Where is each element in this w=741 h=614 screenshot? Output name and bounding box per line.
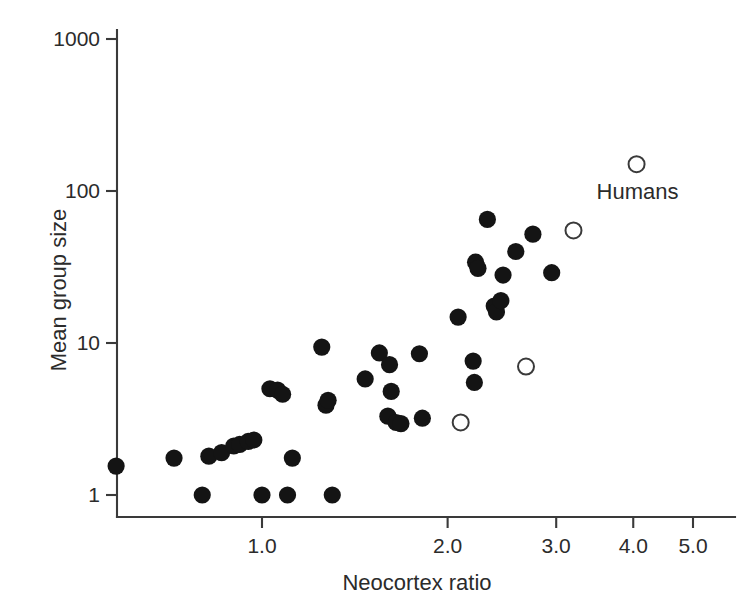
data-point-filled [284, 449, 301, 466]
data-point-filled [383, 383, 400, 400]
x-tick-label: 2.0 [433, 534, 462, 557]
data-point-open [453, 414, 469, 430]
x-tick-label: 3.0 [542, 534, 571, 557]
y-tick-label: 100 [65, 179, 100, 202]
axes-group [117, 30, 735, 517]
data-point-open [518, 359, 534, 375]
scatter-plot-figure: 1101001000 1.02.03.04.05.0 Humans Neocor… [0, 0, 741, 614]
data-point-filled [543, 264, 560, 281]
data-point-filled [245, 431, 262, 448]
data-point-filled [165, 449, 182, 466]
y-axis-title: Mean group size [46, 209, 71, 372]
y-tick-label: 1 [88, 483, 100, 506]
data-point-filled [465, 353, 482, 370]
annotations-layer: Humans [597, 179, 679, 204]
x-tick-label: 1.0 [247, 534, 276, 557]
data-points-layer [108, 156, 645, 503]
data-point-filled [357, 370, 374, 387]
data-point-filled [108, 457, 125, 474]
data-point-filled [507, 243, 524, 260]
data-point-filled [494, 266, 511, 283]
x-tick-label: 4.0 [619, 534, 648, 557]
data-point-filled [492, 292, 509, 309]
data-point-filled [253, 486, 270, 503]
data-point-filled [411, 345, 428, 362]
data-point-filled [414, 410, 431, 427]
chart-canvas: 1101001000 1.02.03.04.05.0 Humans Neocor… [0, 0, 741, 614]
x-axis-ticks: 1.02.03.04.05.0 [247, 517, 707, 557]
data-point-filled [466, 374, 483, 391]
x-tick-label: 5.0 [678, 534, 707, 557]
data-point-filled [381, 356, 398, 373]
data-point-filled [274, 386, 291, 403]
data-point-filled [450, 309, 467, 326]
data-point-filled [324, 486, 341, 503]
data-point-filled [320, 392, 337, 409]
data-point-open [629, 156, 645, 172]
y-tick-label: 1000 [53, 27, 100, 50]
y-tick-label: 10 [77, 331, 100, 354]
data-point-filled [392, 415, 409, 432]
data-point-filled [279, 486, 296, 503]
data-point-filled [479, 211, 496, 228]
data-point-open [565, 222, 581, 238]
x-axis-title: Neocortex ratio [342, 570, 491, 595]
data-point-filled [313, 338, 330, 355]
data-point-filled [194, 486, 211, 503]
annotation-humans-label: Humans [597, 179, 679, 204]
data-point-filled [524, 226, 541, 243]
data-point-filled [469, 260, 486, 277]
